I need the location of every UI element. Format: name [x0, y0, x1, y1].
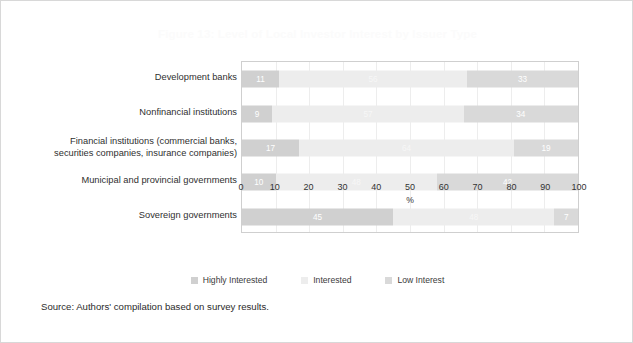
x-axis-tick: 100 — [571, 182, 586, 192]
bar-value-label: 33 — [518, 75, 527, 84]
bar-value-label: 64 — [402, 144, 411, 153]
bar-value-label: 34 — [516, 109, 525, 118]
legend-item[interactable]: Low Interest — [385, 275, 444, 285]
category-label: Development banks — [29, 72, 237, 84]
bar-row: 45487 — [242, 208, 578, 225]
legend-label: Interested — [313, 275, 351, 285]
bar-segment: 7 — [554, 208, 578, 225]
chart-title: Figure 13: Level of Local Investor Inter… — [1, 28, 633, 40]
bar-value-label: 45 — [313, 212, 322, 221]
category-axis: Development banksNonfinancial institutio… — [29, 56, 237, 236]
bar-segment: 9 — [242, 105, 272, 122]
x-axis-tick: 0 — [238, 182, 243, 192]
x-axis-tick: 20 — [304, 182, 314, 192]
x-axis-tick: 40 — [371, 182, 381, 192]
x-axis-tick: 70 — [473, 182, 483, 192]
x-axis: % 0102030405060708090100 — [241, 180, 579, 210]
x-axis-tick: 90 — [540, 182, 550, 192]
bar-row: 176419 — [242, 140, 578, 157]
legend-swatch-icon — [301, 277, 308, 284]
bar-row: 95734 — [242, 105, 578, 122]
legend-item[interactable]: Highly Interested — [191, 275, 268, 285]
bar-value-label: 48 — [469, 212, 478, 221]
bar-segment: 45 — [242, 208, 393, 225]
legend-swatch-icon — [385, 277, 392, 284]
legend-label: Low Interest — [397, 275, 444, 285]
bar-value-label: 9 — [255, 109, 260, 118]
category-label: Nonfinancial institutions — [29, 107, 237, 119]
bar-value-label: 7 — [564, 212, 569, 221]
bar-segment: 48 — [393, 208, 554, 225]
x-axis-tick: 30 — [337, 182, 347, 192]
bar-segment: 11 — [242, 71, 279, 88]
x-axis-tick: 50 — [405, 182, 415, 192]
bar-row: 115633 — [242, 71, 578, 88]
bar-value-label: 11 — [256, 75, 265, 84]
x-axis-title: % — [241, 195, 579, 205]
x-axis-tick: 80 — [506, 182, 516, 192]
bar-segment: 19 — [514, 140, 578, 157]
figure-container: Figure 13: Level of Local Investor Inter… — [0, 0, 633, 343]
bar-value-label: 57 — [363, 109, 372, 118]
chart-legend: Highly InterestedInterestedLow Interest — [1, 275, 633, 285]
bar-value-label: 19 — [542, 144, 551, 153]
chart-plot-wrapper: Development banksNonfinancial institutio… — [1, 56, 633, 256]
category-label: Municipal and provincial governments — [29, 176, 237, 188]
source-note: Source: Authors' compilation based on su… — [41, 301, 269, 312]
category-label: Sovereign governments — [29, 210, 237, 222]
legend-item[interactable]: Interested — [301, 275, 351, 285]
legend-label: Highly Interested — [203, 275, 268, 285]
bar-segment: 57 — [272, 105, 464, 122]
x-axis-tick: 10 — [270, 182, 280, 192]
bar-value-label: 56 — [368, 75, 377, 84]
legend-swatch-icon — [191, 277, 198, 284]
category-label: Financial institutions (commercial banks… — [29, 136, 237, 159]
bar-segment: 64 — [299, 140, 514, 157]
bar-segment: 33 — [467, 71, 578, 88]
bar-segment: 56 — [279, 71, 467, 88]
bar-segment: 17 — [242, 140, 299, 157]
bar-value-label: 17 — [266, 144, 275, 153]
x-axis-tick: 60 — [439, 182, 449, 192]
bar-segment: 34 — [464, 105, 578, 122]
